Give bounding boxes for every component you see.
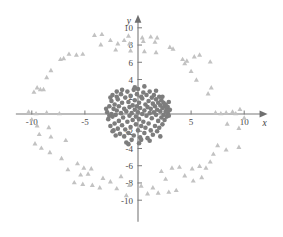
data-point-triangle bbox=[80, 51, 85, 55]
data-point-triangle bbox=[47, 150, 52, 154]
data-point-triangle bbox=[211, 151, 216, 155]
data-point-triangle bbox=[180, 57, 185, 61]
data-point-circle bbox=[126, 131, 131, 136]
data-point-circle bbox=[128, 94, 133, 99]
data-point-circle bbox=[119, 111, 124, 116]
data-point-triangle bbox=[236, 145, 241, 149]
data-point-circle bbox=[144, 93, 149, 98]
data-point-triangle bbox=[182, 173, 187, 177]
data-point-circle bbox=[116, 126, 121, 131]
data-point-circle bbox=[117, 119, 122, 124]
data-point-triangle bbox=[148, 34, 153, 38]
data-point-triangle bbox=[48, 68, 53, 72]
data-point-triangle bbox=[197, 164, 202, 168]
data-point-triangle bbox=[159, 169, 164, 173]
data-point-circle bbox=[136, 110, 141, 115]
x-axis-arrow-icon bbox=[260, 111, 268, 118]
data-point-triangle bbox=[72, 180, 77, 184]
y-tick-label: -6 bbox=[126, 161, 134, 171]
data-point-triangle bbox=[190, 166, 195, 170]
data-point-circle bbox=[104, 107, 109, 112]
data-point-circle bbox=[129, 111, 134, 116]
data-point-circle bbox=[136, 128, 141, 133]
data-point-circle bbox=[120, 88, 125, 93]
data-point-circle bbox=[156, 119, 161, 124]
data-point-triangle bbox=[46, 125, 51, 129]
data-point-triangle bbox=[174, 188, 179, 192]
data-point-circle bbox=[121, 115, 126, 120]
data-point-triangle bbox=[89, 166, 94, 170]
data-point-circle bbox=[147, 111, 152, 116]
data-point-circle bbox=[167, 100, 172, 105]
data-point-triangle bbox=[44, 75, 49, 79]
data-point-circle bbox=[123, 127, 128, 132]
data-point-triangle bbox=[66, 51, 71, 55]
data-point-triangle bbox=[113, 47, 118, 51]
data-point-triangle bbox=[98, 42, 103, 46]
data-point-circle bbox=[125, 119, 130, 124]
data-point-triangle bbox=[206, 91, 211, 95]
data-point-circle bbox=[116, 97, 121, 102]
data-point-circle bbox=[118, 132, 123, 137]
data-point-circle bbox=[131, 133, 136, 138]
data-point-circle bbox=[154, 88, 159, 93]
data-point-circle bbox=[120, 100, 125, 105]
data-point-circle bbox=[113, 133, 118, 138]
data-point-triangle bbox=[108, 38, 113, 42]
data-point-circle bbox=[147, 138, 152, 143]
data-point-circle bbox=[154, 113, 159, 118]
data-point-triangle bbox=[166, 189, 171, 193]
data-point-triangle bbox=[155, 35, 160, 39]
data-point-circle bbox=[140, 96, 145, 101]
data-point-triangle bbox=[191, 178, 196, 182]
data-point-triangle bbox=[92, 32, 97, 36]
data-point-triangle bbox=[81, 165, 86, 169]
data-point-circle bbox=[133, 85, 138, 90]
data-point-circle bbox=[124, 109, 129, 114]
y-axis-name-label: y bbox=[126, 16, 132, 26]
data-point-circle bbox=[112, 102, 117, 107]
data-point-triangle bbox=[140, 35, 145, 39]
data-point-triangle bbox=[192, 54, 197, 58]
data-point-triangle bbox=[126, 33, 131, 37]
data-point-triangle bbox=[90, 182, 95, 186]
data-point-circle bbox=[130, 118, 135, 123]
data-point-circle bbox=[108, 124, 113, 129]
data-point-triangle bbox=[97, 185, 102, 189]
data-point-triangle bbox=[108, 179, 113, 183]
data-point-triangle bbox=[80, 182, 85, 186]
data-point-triangle bbox=[218, 111, 223, 115]
data-point-circle bbox=[130, 103, 135, 108]
data-point-triangle bbox=[35, 85, 40, 89]
data-point-circle bbox=[160, 94, 165, 99]
y-tick-label: 6 bbox=[129, 58, 134, 68]
data-point-triangle bbox=[167, 45, 172, 49]
data-point-triangle bbox=[115, 41, 120, 45]
data-point-triangle bbox=[44, 110, 49, 114]
data-point-circle bbox=[134, 122, 139, 127]
data-point-triangle bbox=[156, 190, 161, 194]
data-point-triangle bbox=[41, 87, 46, 91]
data-point-triangle bbox=[74, 52, 79, 56]
x-axis-name-label: x bbox=[261, 118, 267, 128]
data-point-triangle bbox=[114, 186, 119, 190]
data-point-circle bbox=[126, 100, 131, 105]
data-point-circle bbox=[150, 116, 155, 121]
data-point-circle bbox=[129, 138, 134, 143]
data-point-circle bbox=[114, 89, 119, 94]
data-point-circle bbox=[160, 122, 165, 127]
data-point-triangle bbox=[122, 38, 127, 42]
data-point-triangle bbox=[26, 109, 31, 113]
data-point-circle bbox=[111, 128, 116, 133]
data-point-circle bbox=[139, 138, 144, 143]
data-point-triangle bbox=[224, 110, 229, 114]
data-point-triangle bbox=[169, 165, 174, 169]
data-point-triangle bbox=[75, 161, 80, 165]
data-point-triangle bbox=[208, 59, 213, 63]
data-point-triangle bbox=[78, 172, 83, 176]
data-point-triangle bbox=[163, 176, 168, 180]
data-point-circle bbox=[125, 89, 130, 94]
data-point-triangle bbox=[99, 32, 104, 36]
plot-canvas: -10-5510-10-8-6-4-2246810xy bbox=[0, 0, 283, 237]
data-point-triangle bbox=[215, 143, 220, 147]
